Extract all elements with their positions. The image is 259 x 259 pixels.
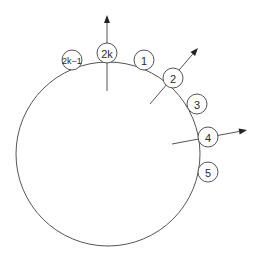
arrowhead-icon <box>104 15 110 23</box>
node-n3: 3 <box>187 94 207 114</box>
node-label: 5 <box>205 167 211 179</box>
node-n5: 5 <box>198 162 218 182</box>
ring-diagram: 2k−12k12345 <box>0 0 259 259</box>
node-n2k1: 2k−1 <box>62 50 82 70</box>
node-label: 2k <box>101 48 113 60</box>
node-label: 2k−1 <box>62 56 82 66</box>
arrowhead-icon <box>239 129 247 135</box>
node-n4: 4 <box>198 127 218 147</box>
node-n2: 2 <box>163 68 183 88</box>
ring-circle <box>16 62 200 246</box>
node-label: 4 <box>205 132 211 144</box>
nodes-group: 2k−12k12345 <box>62 43 218 182</box>
node-n1: 1 <box>134 50 154 70</box>
node-label: 1 <box>141 55 147 67</box>
node-label: 3 <box>194 99 200 111</box>
node-label: 2 <box>170 73 176 85</box>
node-n2k: 2k <box>97 43 117 63</box>
